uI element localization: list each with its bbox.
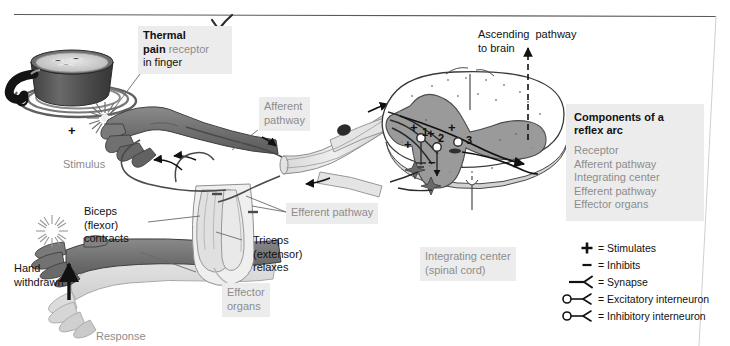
legend-row-inhibits: = Inhibits <box>560 256 728 273</box>
spinal-minus-1: − <box>428 156 436 169</box>
thermal-rest-line2: receptor <box>166 43 209 55</box>
interneuron-2 <box>433 143 441 151</box>
label-triceps: Triceps (extensor) relaxes <box>253 234 303 275</box>
central-canal <box>449 148 461 153</box>
arm-muscles <box>192 184 254 286</box>
label-response: Response <box>96 330 146 344</box>
nerve-cut-end <box>280 156 288 174</box>
component-item-receptor: Receptor <box>574 144 696 158</box>
thermal-bold-line2: pain <box>143 43 166 55</box>
spinal-plus-1: + <box>410 121 418 134</box>
spinal-number-2: 2 <box>438 132 444 144</box>
label-effector-organs: Effector organs <box>222 283 270 317</box>
excitatory-interneuron-icon <box>560 292 598 306</box>
figure-canvas: Thermalpain receptorin finger Stimulus +… <box>0 0 730 346</box>
interneuron-3 <box>454 138 462 146</box>
ventral-root <box>317 172 382 197</box>
components-box-title: Components of areflex arc <box>574 111 696 137</box>
thermal-bold-line1: Thermal <box>143 29 186 41</box>
component-item-efferent-pathway: Efferent pathway <box>574 185 696 199</box>
component-item-afferent-pathway: Afferent pathway <box>574 158 696 172</box>
legend-row-excitatory-interneuron: = Excitatory interneuron <box>560 290 728 307</box>
spinal-plus-4: + <box>404 138 412 151</box>
minus-icon <box>560 258 598 272</box>
top-rule <box>14 15 716 17</box>
inhibitory-interneuron-icon <box>560 309 598 323</box>
legend-row-inhibitory-interneuron: = Inhibitory interneuron <box>560 307 728 324</box>
label-ascending-pathway: Ascending pathway to brain <box>478 28 576 55</box>
stove-and-pot <box>9 50 136 117</box>
components-of-reflex-arc-box: Components of areflex arc Receptor Affer… <box>566 104 704 221</box>
label-efferent-pathway: Efferent pathway <box>286 203 378 224</box>
label-afferent-pathway: Afferent pathway <box>259 97 310 131</box>
stimulus-plus-sign: + <box>68 124 76 137</box>
components-title-line1: Components of a <box>574 111 664 123</box>
efferent-to-biceps <box>175 152 214 182</box>
component-item-integrating-center: Integrating center <box>574 171 696 185</box>
legend-label-excitatory-interneuron: = Excitatory interneuron <box>598 293 709 305</box>
spinal-plus-2: + <box>427 127 435 140</box>
components-title-line2: reflex arc <box>574 124 623 136</box>
components-list: Receptor Afferent pathway Integrating ce… <box>574 144 696 212</box>
legend-label-synapse: = Synapse <box>598 276 648 288</box>
plus-icon <box>560 241 598 255</box>
label-thermal-pain-receptor: Thermalpain receptorin finger <box>138 26 232 74</box>
legend-row-stimulates: = Stimulates <box>560 239 728 256</box>
component-item-effector-organs: Effector organs <box>574 198 696 212</box>
legend-label-inhibits: = Inhibits <box>598 259 640 271</box>
legend-label-stimulates: = Stimulates <box>598 242 656 254</box>
label-biceps: Biceps (flexor) contracts <box>84 205 129 246</box>
label-stimulus: Stimulus <box>63 158 105 172</box>
spinal-plus-3: + <box>448 121 456 134</box>
label-hand-withdrawn: Hand withdrawn <box>14 262 64 289</box>
legend-label-inhibitory-interneuron: = Inhibitory interneuron <box>598 310 706 322</box>
thermal-line3: in finger <box>143 56 182 68</box>
pot-contents <box>36 53 108 72</box>
spinal-number-3: 3 <box>466 134 472 146</box>
legend-row-synapse: = Synapse <box>560 273 728 290</box>
synapse-icon <box>560 275 598 289</box>
label-integrating-center: Integrating center (spinal cord) <box>420 247 516 281</box>
symbol-legend: = Stimulates = Inhibits = Synapse <box>560 239 728 324</box>
